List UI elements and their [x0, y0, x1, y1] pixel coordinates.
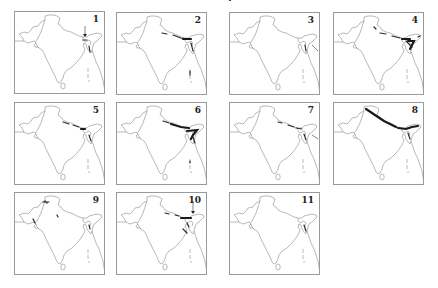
map-panel-1: 1 — [14, 11, 105, 94]
india-map — [15, 103, 105, 185]
india-map — [334, 13, 424, 95]
cropped-caption-fragment: · — [228, 0, 232, 7]
panel-number: 8 — [412, 106, 418, 115]
panel-number: 2 — [195, 16, 201, 25]
map-panel-10: 10 — [116, 192, 207, 275]
panel-number: 9 — [93, 196, 99, 205]
panel-number: 10 — [188, 196, 201, 205]
panel-number: 7 — [308, 106, 314, 115]
panel-number: 3 — [308, 16, 314, 25]
panel-number: 5 — [93, 106, 99, 115]
map-panel-4: 4 — [333, 12, 424, 95]
map-panel-8: 8 — [333, 102, 424, 185]
india-map — [15, 193, 105, 275]
map-panel-3: 3 — [229, 12, 320, 95]
india-map — [117, 193, 207, 275]
india-map — [117, 103, 207, 185]
india-map — [230, 103, 320, 185]
india-map — [230, 193, 320, 275]
map-panel-6: 6 — [116, 102, 207, 185]
panel-number: 4 — [412, 16, 418, 25]
map-panel-2: 2 — [116, 12, 207, 95]
map-panel-11: 11 — [229, 192, 320, 275]
india-map — [117, 13, 207, 95]
india-map — [15, 12, 105, 94]
panel-number: 11 — [301, 196, 314, 205]
india-map — [334, 103, 424, 185]
panel-number: 1 — [93, 15, 99, 24]
india-map — [230, 13, 320, 95]
panel-number: 6 — [195, 106, 201, 115]
map-panel-5: 5 — [14, 102, 105, 185]
map-panel-9: 9 — [14, 192, 105, 275]
map-panel-7: 7 — [229, 102, 320, 185]
